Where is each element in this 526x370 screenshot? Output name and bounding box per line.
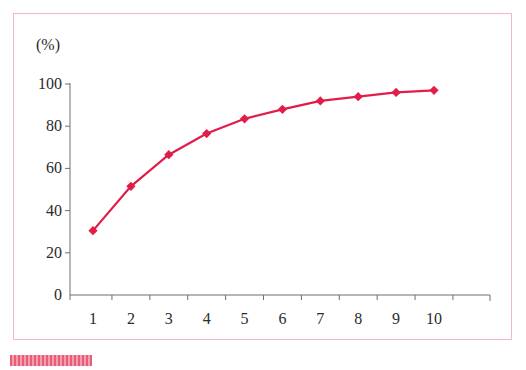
- data-series-group: [88, 86, 438, 236]
- data-point-marker: [354, 92, 363, 101]
- chart-screenshot: (%) 020406080100 12345678910: [0, 0, 526, 370]
- margin-scan-mark: [10, 355, 92, 366]
- line-chart: (%) 020406080100 12345678910: [0, 0, 526, 370]
- data-point-marker: [278, 105, 287, 114]
- data-point-marker: [202, 129, 211, 138]
- data-point-marker: [429, 86, 438, 95]
- data-point-marker: [392, 88, 401, 97]
- data-point-marker: [240, 114, 249, 123]
- axes-group: [65, 83, 490, 301]
- series-line: [93, 90, 434, 230]
- data-point-marker: [316, 96, 325, 105]
- plot-canvas: [0, 0, 526, 370]
